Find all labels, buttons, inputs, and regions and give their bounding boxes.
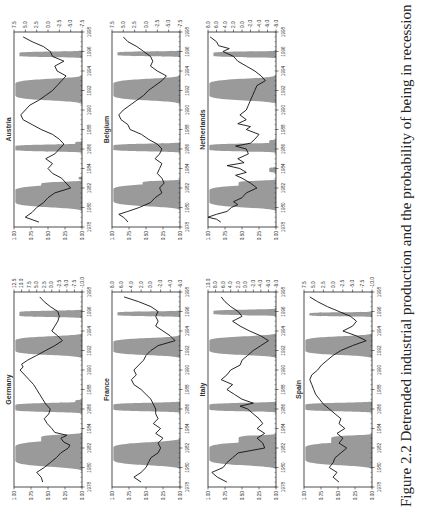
right-y-tick-label: 7.5 [12,21,17,28]
recession-probability-area [209,333,276,358]
x-tick-label: 1980 [185,462,190,473]
x-tick-label: 1996 [281,46,286,57]
left-y-tick-label: 0.00 [80,491,85,501]
left-y-tick-label: 0.25 [257,491,262,501]
right-y-tick-label: -6.0 [178,279,183,288]
x-tick-label: 1982 [185,442,190,453]
panel-germany: Germany197819801982198419861988199019921… [5,277,92,501]
left-y-tick-label: 1.00 [302,491,307,501]
left-y-tick-label: 0.75 [29,231,34,241]
left-y-tick-label: 0.50 [336,491,341,501]
x-tick-label: 1994 [377,325,382,336]
right-y-tick-label: -2.5 [57,279,62,288]
panel-netherlands: Netherlands19781980198219841986198819901… [199,19,286,240]
panel-france: France1978198019821984198619881990199219… [103,279,190,500]
x-tick-label: 1996 [87,46,92,57]
left-y-tick-label: 0.25 [161,491,166,501]
panel-title: Austria [5,117,12,141]
right-y-tick-label: -5.0 [64,279,69,288]
x-tick-label: 1980 [87,202,92,213]
x-tick-label: 1978 [185,221,190,232]
panel-italy: Italy19781980198219841986198819901992199… [199,278,286,500]
panel-belgium: Belgium197819801982198419861988199019921… [103,19,190,240]
right-y-tick-label: -7.5 [72,279,77,288]
right-y-tick-label: -10.0 [80,277,85,288]
right-y-tick-label: 4.0 [129,281,134,288]
recession-probability-area [15,333,82,358]
left-y-tick-label: 0.50 [144,231,149,241]
x-tick-label: 1994 [281,325,286,336]
x-tick-label: 1994 [185,325,190,336]
left-y-tick-label: 0.00 [178,491,183,501]
right-y-tick-label: 2.5 [34,21,39,28]
x-tick-label: 1998 [87,286,92,297]
x-tick-label: 1988 [377,384,382,395]
x-tick-label: 1988 [185,124,190,135]
x-tick-label: 1984 [281,163,286,174]
recession-probability-area [15,75,82,104]
right-y-tick-label: 4.0 [228,281,233,288]
panel-spain: Spain19781980198219841986198819901992199… [295,277,382,501]
x-tick-label: 1992 [281,85,286,96]
right-y-tick-label: 0.0 [331,281,336,288]
recession-probability-area [305,401,372,413]
right-y-tick-label: 4.0 [223,21,228,28]
right-y-tick-label: -2.5 [155,19,160,28]
left-y-tick-label: 0.00 [80,231,85,241]
right-y-tick-label: 0.0 [148,281,153,288]
x-tick-label: 1988 [281,124,286,135]
x-tick-label: 1982 [377,442,382,453]
right-y-tick-label: 7.5 [302,281,307,288]
right-y-tick-label: 2.5 [42,281,47,288]
right-y-tick-label: -5.0 [68,19,73,28]
x-tick-label: 1982 [87,182,92,193]
x-tick-label: 1986 [87,143,92,154]
right-y-tick-label: -8.0 [274,279,279,288]
right-y-tick-label: 8.0 [206,21,211,28]
left-y-tick-label: 0.75 [223,231,228,241]
x-tick-label: 1990 [87,364,92,375]
right-y-tick-label: 6.0 [214,21,219,28]
left-y-tick-label: 1.00 [206,231,211,241]
right-y-tick-label: -2.5 [340,279,345,288]
right-y-tick-label: 7.5 [110,21,115,28]
x-tick-label: 1992 [185,85,190,96]
right-y-tick-label: 8.0 [110,281,115,288]
right-y-tick-label: -4.0 [168,279,173,288]
left-y-tick-label: 1.00 [12,491,17,501]
x-tick-label: 1996 [281,306,286,317]
right-y-tick-label: -5.0 [350,279,355,288]
x-tick-label: 1990 [377,364,382,375]
x-tick-label: 1992 [377,345,382,356]
recession-probability-area [269,167,276,174]
x-tick-label: 1990 [185,364,190,375]
left-y-tick-label: 0.50 [144,491,149,501]
right-y-tick-label: -2.0 [251,279,256,288]
panel-title: Italy [199,382,207,396]
x-tick-label: 1986 [87,403,92,414]
right-y-tick-label: 8.0 [213,281,218,288]
x-tick-label: 1984 [185,423,190,434]
left-y-tick-label: 0.50 [240,231,245,241]
right-y-tick-label: 2.0 [231,21,236,28]
right-y-tick-label: 2.0 [236,281,241,288]
x-tick-label: 1978 [87,481,92,492]
x-tick-label: 1996 [185,306,190,317]
x-tick-label: 1980 [87,462,92,473]
x-tick-label: 1988 [87,124,92,135]
x-tick-label: 1984 [377,423,382,434]
x-tick-label: 1992 [281,345,286,356]
x-tick-label: 1980 [281,202,286,213]
x-tick-label: 1994 [185,65,190,76]
right-y-tick-label: -5.0 [166,19,171,28]
x-tick-label: 1980 [377,462,382,473]
left-y-tick-label: 0.25 [63,491,68,501]
recession-probability-area [113,401,180,413]
x-tick-label: 1996 [185,46,190,57]
left-y-tick-label: 0.50 [46,231,51,241]
right-y-tick-label: -7.5 [80,19,85,28]
right-y-tick-label: 0.0 [46,21,51,28]
recession-probability-area [117,311,180,318]
left-y-tick-label: 0.75 [319,491,324,501]
left-y-tick-label: 1.00 [110,231,115,241]
